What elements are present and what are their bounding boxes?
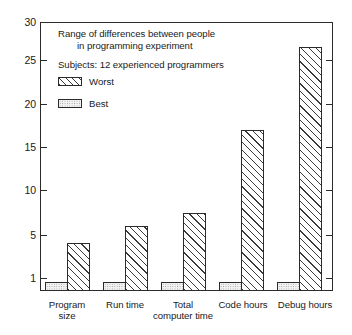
chart-caption: Range of differences between people in p… bbox=[58, 28, 273, 71]
y-tick-mark-right-15 bbox=[326, 147, 333, 148]
caption-line-1: Range of differences between people bbox=[58, 28, 273, 40]
x-axis: Program size Run time Total computer tim… bbox=[0, 294, 352, 335]
bar-worst-program-size bbox=[67, 243, 90, 291]
y-tick-mark-right-1 bbox=[326, 278, 333, 279]
y-tick-mark-15 bbox=[40, 147, 47, 148]
bar-worst-code-hours bbox=[241, 130, 264, 291]
bar-best-debug-hours bbox=[277, 282, 300, 291]
y-tick-mark-20 bbox=[40, 104, 47, 105]
x-label-debug-hours: Debug hours bbox=[262, 299, 348, 311]
legend-label-best: Best bbox=[89, 99, 108, 109]
legend-item-worst: Worst bbox=[58, 75, 114, 88]
caption-line-2: in programming experiment bbox=[58, 40, 273, 52]
y-tick-mark-1 bbox=[40, 278, 47, 279]
x-label-total-computer-time-line2: computer time bbox=[133, 310, 233, 322]
bar-best-run-time bbox=[103, 282, 126, 291]
y-tick-label-25: 25 bbox=[6, 55, 36, 65]
bar-worst-total-computer-time bbox=[183, 213, 206, 291]
bar-worst-run-time bbox=[125, 226, 148, 291]
y-tick-mark-right-10 bbox=[326, 190, 333, 191]
y-tick-label-30: 30 bbox=[6, 17, 36, 27]
y-tick-mark-25 bbox=[40, 60, 47, 61]
bar-worst-debug-hours bbox=[299, 47, 322, 291]
bar-best-code-hours bbox=[219, 282, 242, 291]
bar-best-total-computer-time bbox=[161, 282, 184, 291]
bar-best-program-size bbox=[45, 282, 68, 291]
x-label-program-size-line2: size bbox=[32, 310, 102, 322]
y-tick-mark-5 bbox=[40, 235, 47, 236]
legend-label-worst: Worst bbox=[89, 77, 114, 87]
chart-legend: Worst Best bbox=[58, 75, 114, 119]
y-tick-label-20: 20 bbox=[6, 99, 36, 109]
legend-item-best: Best bbox=[58, 97, 114, 110]
y-tick-mark-right-20 bbox=[326, 104, 333, 105]
legend-swatch-worst-icon bbox=[58, 77, 82, 87]
bar-chart: 30 25 20 15 10 5 1 Range of differences … bbox=[0, 0, 352, 335]
y-tick-label-1: 1 bbox=[6, 273, 36, 283]
y-tick-mark-10 bbox=[40, 190, 47, 191]
y-tick-label-10: 10 bbox=[6, 185, 36, 195]
y-axis: 30 25 20 15 10 5 1 bbox=[0, 0, 36, 335]
y-tick-label-15: 15 bbox=[6, 142, 36, 152]
y-tick-mark-right-25 bbox=[326, 60, 333, 61]
y-tick-mark-right-5 bbox=[326, 235, 333, 236]
caption-subjects: Subjects: 12 experienced programmers bbox=[58, 59, 273, 71]
legend-swatch-best-icon bbox=[58, 99, 82, 109]
y-tick-label-5: 5 bbox=[6, 230, 36, 240]
